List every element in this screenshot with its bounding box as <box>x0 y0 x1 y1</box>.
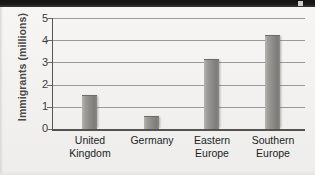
bar-eastern-europe <box>204 59 219 129</box>
bar-united-kingdom <box>82 95 97 129</box>
y-tick-label: 2 <box>28 78 48 90</box>
bar-top-edge <box>144 116 159 117</box>
y-axis-tick-labels: 5 4 3 2 1 0 <box>26 18 48 133</box>
plot-area <box>52 18 305 129</box>
bar-top-edge <box>82 95 97 96</box>
y-tick-label: 5 <box>28 12 48 24</box>
y-axis-line <box>52 18 53 130</box>
chart-figure: Immigrants (millions) 5 4 3 2 1 0 United… <box>0 0 315 175</box>
gridline-5 <box>52 18 305 19</box>
y-tick-label: 1 <box>28 100 48 112</box>
y-tick-label: 3 <box>28 56 48 68</box>
x-axis-line <box>52 129 305 131</box>
bar-top-edge <box>265 35 280 36</box>
y-tick-label: 0 <box>28 122 48 134</box>
bar-germany <box>144 116 159 129</box>
bar-top-edge <box>204 59 219 60</box>
page-edge-band <box>0 0 315 7</box>
x-label-line: Kingdom <box>53 147 127 160</box>
x-label-line: Europe <box>236 147 310 160</box>
page-edge-nick <box>298 1 303 6</box>
page-edge-left <box>0 7 3 175</box>
y-tick-label: 4 <box>28 34 48 46</box>
x-axis-category-labels: United Kingdom Germany Eastern Europe So… <box>52 134 305 174</box>
x-label-line: Southern <box>236 134 310 147</box>
bar-southern-europe <box>265 35 280 129</box>
x-label-southern-europe: Southern Europe <box>236 134 310 159</box>
